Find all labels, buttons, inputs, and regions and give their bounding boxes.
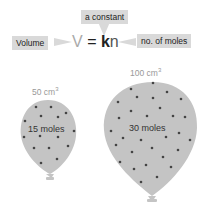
equation: V = kn [72,33,119,51]
equation-constant: k [101,33,110,50]
moles-pointer [118,38,136,46]
large-balloon-moles: 30 moles [129,123,166,133]
equation-equals: = [87,33,96,50]
constant-label: a constant [81,10,128,24]
small-balloon [21,100,77,180]
volume-exponent: 3 [158,67,161,73]
small-balloon-volume: 50 cm3 [32,86,59,97]
equation-moles: n [110,33,119,50]
large-balloon [104,82,197,202]
volume-value: 100 cm [130,68,158,78]
volume-value: 50 cm [32,87,55,97]
equation-volume: V [72,33,83,50]
diagram-graphics [0,0,207,209]
volume-label: Volume [12,36,48,50]
volume-exponent: 3 [55,86,58,92]
large-balloon-volume: 100 cm3 [130,67,161,78]
moles-label: no. of moles [137,34,191,48]
volume-pointer [54,38,72,46]
small-balloon-moles: 15 moles [28,124,65,134]
